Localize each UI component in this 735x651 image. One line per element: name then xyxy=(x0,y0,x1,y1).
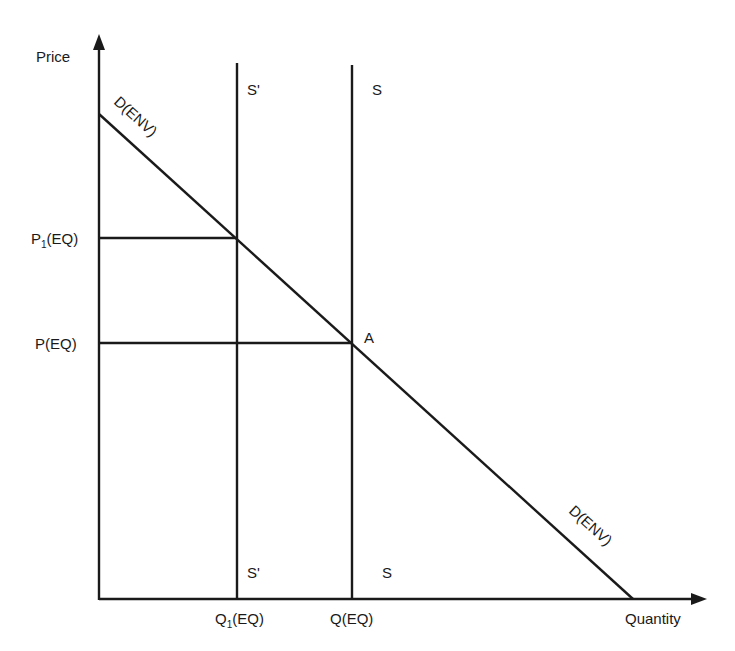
demand-label-bottom: D(ENV) xyxy=(566,502,616,549)
demand-line xyxy=(99,114,633,599)
supply-shifted-label-top: S' xyxy=(247,81,260,98)
x-axis-label: Quantity xyxy=(625,610,681,627)
equilibrium-point-label: A xyxy=(364,329,374,346)
q1-tick-label: Q1(EQ) xyxy=(215,610,264,630)
x-axis-arrow-icon xyxy=(691,593,707,605)
supply-demand-diagram: Price Quantity S' S S' S D(ENV) D(ENV) A… xyxy=(0,0,735,651)
y-axis-label: Price xyxy=(36,48,70,65)
supply-shifted-label-bottom: S' xyxy=(247,564,260,581)
y-axis-arrow-icon xyxy=(93,34,105,50)
q-tick-label: Q(EQ) xyxy=(330,610,373,627)
supply-label-bottom: S xyxy=(382,564,392,581)
supply-label-top: S xyxy=(372,81,382,98)
p-tick-label: P(EQ) xyxy=(35,335,77,352)
p1-tick-label: P1(EQ) xyxy=(31,230,78,250)
